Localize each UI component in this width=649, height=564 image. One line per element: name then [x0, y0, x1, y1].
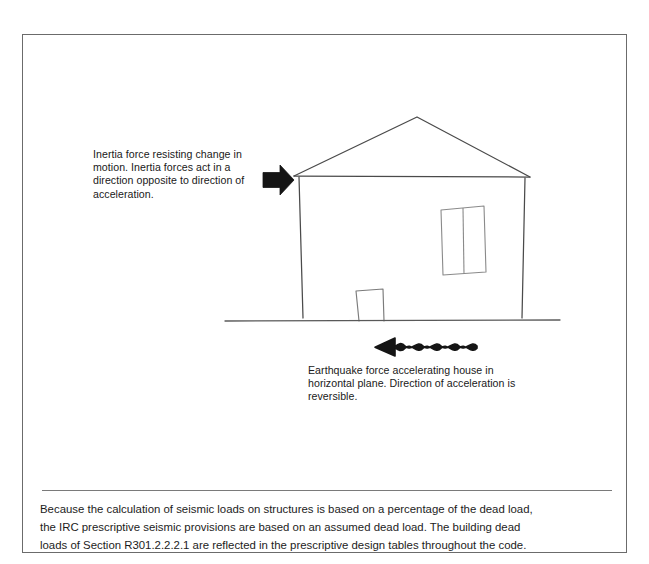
house-elevation-svg — [22, 34, 627, 553]
window — [441, 206, 486, 275]
caption-line-1: Because the calculation of seismic loads… — [40, 500, 613, 518]
door — [356, 289, 384, 321]
door-outline — [356, 289, 384, 321]
caption-divider — [42, 490, 612, 491]
figure-page: Inertia force resisting change in motion… — [0, 0, 649, 564]
right-wall — [522, 178, 525, 318]
house-walls — [299, 177, 525, 318]
roof-ridge-lines — [294, 117, 530, 177]
window-mullion — [463, 208, 464, 274]
inertia-force-annotation: Inertia force resisting change in motion… — [93, 148, 271, 201]
wavy-left-arrow-shape — [375, 338, 477, 356]
ground-line — [225, 320, 560, 321]
roof-gable — [294, 117, 530, 177]
caption-line-3: loads of Section R301.2.2.2.1 are reflec… — [40, 536, 613, 554]
left-wall — [299, 177, 303, 318]
house-diagram-canvas — [22, 34, 627, 553]
caption-line-2: the IRC prescriptive seismic provisions … — [40, 518, 613, 536]
earthquake-force-annotation: Earthquake force accelerating house in h… — [308, 364, 538, 404]
roof-eave-line — [294, 176, 530, 177]
caption-paragraph: Because the calculation of seismic loads… — [40, 500, 613, 555]
wavy-left-arrow-icon — [375, 338, 477, 356]
